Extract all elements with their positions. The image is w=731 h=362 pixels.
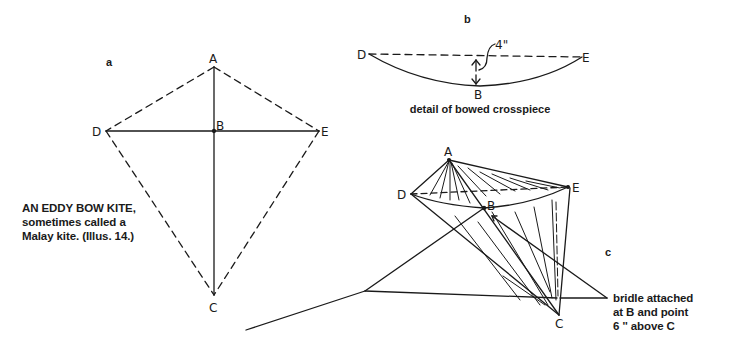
- caption-line: at B and point: [613, 305, 693, 319]
- panel-b-bowed-crosspiece: [369, 44, 582, 86]
- point-d-label-b: D: [357, 48, 366, 62]
- caption-line: AN EDDY BOW KITE,: [22, 201, 136, 215]
- point-b-label: B: [216, 119, 224, 133]
- point-d-label-c: D: [397, 188, 406, 202]
- caption-line: 6 '' above C: [613, 319, 693, 333]
- point-e-label-c: E: [572, 181, 580, 195]
- panel-c-3d-kite: [246, 159, 607, 330]
- panel-c-label: c: [605, 246, 611, 258]
- point-c-label-c: C: [555, 317, 563, 331]
- point-b-label-c: B: [487, 199, 495, 213]
- point-a-label-c: A: [444, 145, 453, 159]
- point-c-label: C: [209, 301, 217, 315]
- point-b-dot-c: [482, 206, 485, 209]
- point-e-label: E: [321, 125, 329, 139]
- point-b-label-b: B: [474, 88, 482, 102]
- measurement-label: 4": [495, 38, 508, 52]
- bridle-caption: bridle attached at B and point 6 '' abov…: [613, 291, 693, 333]
- caption-line: Malay kite. (Illus. 14.): [22, 229, 136, 243]
- point-a-label: A: [209, 52, 218, 66]
- caption-line: sometimes called a: [22, 215, 136, 229]
- bridle-line-to-b: [365, 208, 484, 291]
- point-e-label-b: E: [582, 51, 590, 65]
- panel-b-label: b: [464, 13, 471, 25]
- dashed-outline: [106, 67, 319, 295]
- figure-title-caption: AN EDDY BOW KITE, sometimes called a Mal…: [22, 201, 136, 243]
- measurement-leader-line: [479, 44, 495, 70]
- panel-b-caption: detail of bowed crosspiece: [410, 103, 551, 115]
- panel-a-label: a: [106, 56, 113, 68]
- flying-line: [246, 291, 365, 330]
- panel-a-kite-outline: [106, 67, 319, 295]
- straight-reference-line: [369, 54, 582, 57]
- bridle-line-to-c: [365, 291, 557, 298]
- point-d-label: D: [92, 125, 101, 139]
- caption-line: bridle attached: [613, 291, 693, 305]
